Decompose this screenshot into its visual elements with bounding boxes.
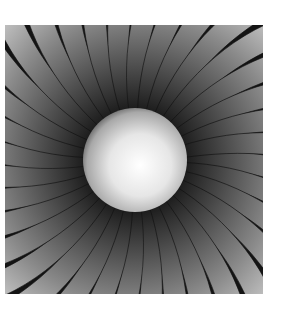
pinwheel-svg [5, 25, 263, 294]
center-orb [83, 108, 187, 212]
pinwheel-artwork [5, 25, 263, 294]
